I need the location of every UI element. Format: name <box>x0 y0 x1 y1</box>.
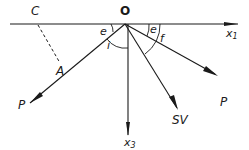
label-angle-e-left: e <box>100 26 107 37</box>
label-angle-i: i <box>107 40 110 51</box>
wavefront-ca-line <box>38 25 60 63</box>
x3-arrow-icon <box>126 122 130 136</box>
reflected-p-arrow-icon <box>203 66 218 76</box>
label-o: O <box>120 5 130 17</box>
angle-e-left-arc <box>111 24 113 32</box>
label-x3: x3 <box>124 137 136 150</box>
label-angle-f: f <box>160 33 164 44</box>
x1-arrow-icon <box>224 22 238 26</box>
label-a: A <box>56 65 64 77</box>
label-x1: x1 <box>226 28 238 41</box>
incident-arrow-icon <box>30 92 43 103</box>
reflected-p-ray-line <box>125 24 215 74</box>
label-sv: SV <box>172 114 188 126</box>
diagram-canvas <box>0 0 249 150</box>
label-incident-p: P <box>18 99 25 111</box>
sv-ray-line <box>125 24 177 108</box>
label-reflected-p: P <box>220 96 227 108</box>
label-c: C <box>31 5 39 17</box>
sv-arrow-icon <box>169 95 178 110</box>
label-angle-e-right: e <box>150 24 157 35</box>
angle-e-right-arc <box>147 24 149 36</box>
angle-i-arc <box>107 39 128 48</box>
